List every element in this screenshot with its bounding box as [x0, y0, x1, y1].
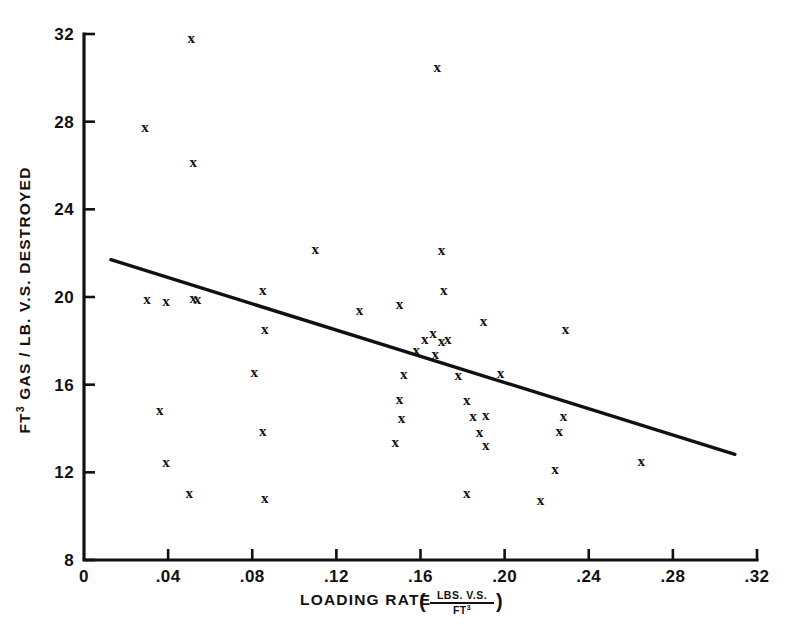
- data-point-marker: x: [356, 302, 364, 318]
- data-point-marker: x: [190, 154, 198, 170]
- svg-text:): ): [496, 590, 503, 612]
- y-axis-ticks: 8121620242832: [54, 25, 95, 570]
- data-point-marker: x: [429, 325, 437, 341]
- data-point-marker: x: [480, 313, 488, 329]
- data-point-marker: x: [251, 364, 259, 380]
- data-point-marker: x: [400, 366, 408, 382]
- data-point-marker: x: [463, 485, 471, 501]
- x-tick-label: .16: [408, 567, 433, 586]
- data-point-marker: x: [396, 296, 404, 312]
- data-point-marker: x: [469, 408, 477, 424]
- data-point-marker: x: [185, 485, 193, 501]
- data-point-marker: x: [562, 321, 570, 337]
- x-tick-label: .24: [576, 567, 601, 586]
- data-point-marker: x: [482, 437, 490, 453]
- data-point-marker: x: [162, 454, 170, 470]
- regression-line: [111, 260, 735, 455]
- data-point-marker: x: [556, 423, 564, 439]
- data-point-marker: x: [413, 342, 421, 358]
- data-point-marker: x: [259, 423, 267, 439]
- data-point-marker: x: [455, 367, 463, 383]
- data-point-marker: x: [396, 391, 404, 407]
- data-point-marker: x: [431, 346, 439, 362]
- data-point-marker: x: [434, 59, 442, 75]
- x-axis-ticks: 0.04.08.12.16.20.24.28.32: [79, 549, 769, 586]
- data-point-marker: x: [421, 331, 429, 347]
- data-point-marker: x: [438, 242, 446, 258]
- x-tick-label: .28: [660, 567, 685, 586]
- data-point-marker: x: [463, 392, 471, 408]
- x-tick-label: 0: [79, 567, 89, 586]
- x-tick-label: .12: [324, 567, 349, 586]
- data-point-marker: x: [551, 461, 559, 477]
- data-point-marker: x: [141, 119, 149, 135]
- data-point-marker: x: [440, 282, 448, 298]
- data-point-marker: x: [261, 321, 269, 337]
- x-tick-label: .32: [745, 567, 770, 586]
- data-point-marker: x: [398, 410, 406, 426]
- data-point-marker: x: [638, 453, 646, 469]
- x-axis-label: LOADING RATE ( LBS. V.S. FT3 ): [300, 589, 503, 616]
- data-point-marker: x: [261, 490, 269, 506]
- data-point-marker: x: [259, 282, 267, 298]
- plot-canvas: 8121620242832 0.04.08.12.16.20.24.28.32 …: [0, 0, 791, 625]
- y-tick-label: 32: [54, 25, 74, 44]
- y-tick-label: 28: [54, 113, 74, 132]
- x-tick-label: .08: [240, 567, 265, 586]
- axis-lines: [84, 34, 757, 560]
- y-tick-label: 24: [54, 200, 74, 219]
- x-axis-title: LOADING RATE: [300, 591, 431, 608]
- data-point-marker: x: [156, 402, 164, 418]
- data-point-marker: x: [392, 434, 400, 450]
- data-point-marker: x: [537, 492, 545, 508]
- data-point-marker: x: [482, 407, 490, 423]
- y-tick-label: 12: [54, 463, 74, 482]
- y-tick-label: 16: [54, 376, 74, 395]
- x-tick-label: .20: [492, 567, 517, 586]
- x-tick-label: .04: [156, 567, 181, 586]
- data-point-marker: x: [162, 293, 170, 309]
- y-axis-title: FT3 GAS / LB. V.S. DESTROYED: [14, 166, 33, 433]
- data-point-marker: x: [194, 291, 202, 307]
- trend-line: [111, 260, 735, 455]
- data-point-marker: x: [312, 241, 320, 257]
- data-point-marker: x: [497, 365, 505, 381]
- y-tick-label: 8: [64, 551, 74, 570]
- axes: [84, 34, 757, 560]
- y-tick-label: 20: [54, 288, 74, 307]
- y-axis-label: FT3 GAS / LB. V.S. DESTROYED: [14, 166, 33, 433]
- svg-text:(: (: [419, 590, 426, 612]
- data-point-marker: x: [444, 331, 452, 347]
- data-points: xxxxxxxxxxxxxxxxxxxxxxxxxxxxxxxxxxxxxxxx…: [141, 30, 645, 507]
- x-axis-units-numerator: LBS. V.S.: [437, 589, 487, 601]
- data-point-marker: x: [188, 30, 196, 46]
- data-point-marker: x: [143, 291, 151, 307]
- scatter-plot-figure: 8121620242832 0.04.08.12.16.20.24.28.32 …: [0, 0, 791, 625]
- x-axis-units-denominator: FT3: [453, 604, 471, 616]
